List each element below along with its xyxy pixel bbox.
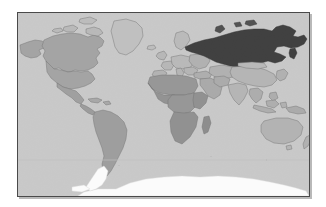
grain-overlay <box>18 13 309 196</box>
speck-a <box>118 165 120 166</box>
figure-container <box>0 0 326 207</box>
speck-c <box>266 159 267 161</box>
speck-b <box>210 156 212 157</box>
world-map-frame <box>17 12 310 197</box>
world-map-canvas <box>18 13 309 196</box>
